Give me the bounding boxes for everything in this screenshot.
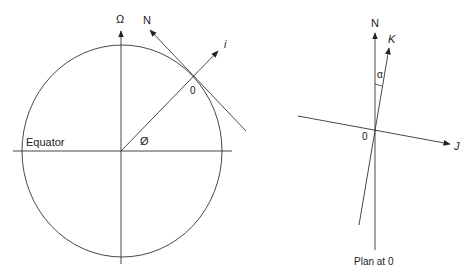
k-label: K xyxy=(388,33,396,45)
north-label: N xyxy=(371,17,379,29)
j-arrow xyxy=(298,116,450,144)
i-label: i xyxy=(224,38,227,50)
right-diagram: N K α 0 J Plan at 0 xyxy=(298,17,460,267)
n-label: N xyxy=(143,14,151,26)
j-label: J xyxy=(453,140,460,152)
diagram-canvas: Ω N i 0 Ø Equator N K α 0 J Plan at 0 xyxy=(0,0,473,280)
omega-label: Ω xyxy=(116,13,124,25)
phi-label: Ø xyxy=(140,135,149,147)
north-tangent-arrow xyxy=(150,30,246,131)
point-0-label: 0 xyxy=(190,85,196,96)
alpha-label: α xyxy=(377,69,383,80)
plan-caption: Plan at 0 xyxy=(354,256,394,267)
origin-label: 0 xyxy=(362,131,368,142)
inclined-axis-arrow xyxy=(121,51,218,151)
equator-label: Equator xyxy=(26,136,65,148)
left-diagram: Ω N i 0 Ø Equator xyxy=(13,13,246,264)
alpha-arc xyxy=(375,84,382,86)
